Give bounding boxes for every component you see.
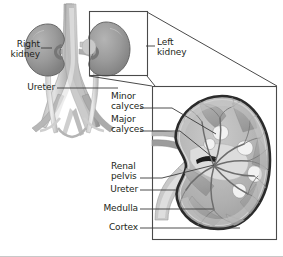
label-major-calyces: Major calyces	[111, 115, 144, 134]
label-left-kidney: Left kidney	[157, 38, 186, 57]
kidney-anatomy-figure: Right kidney Left kidney Ureter Minor ca…	[0, 0, 283, 257]
label-renal-pelvis: Renal pelvis	[111, 162, 137, 181]
label-right-kidney: Right kidney	[0, 40, 40, 59]
label-minor-calyces: Minor calyces	[111, 92, 144, 111]
label-ureter-detail: Ureter	[70, 185, 138, 195]
label-ureter-overview: Ureter	[0, 83, 55, 93]
label-cortex: Cortex	[70, 223, 138, 233]
label-medulla: Medulla	[70, 204, 138, 214]
